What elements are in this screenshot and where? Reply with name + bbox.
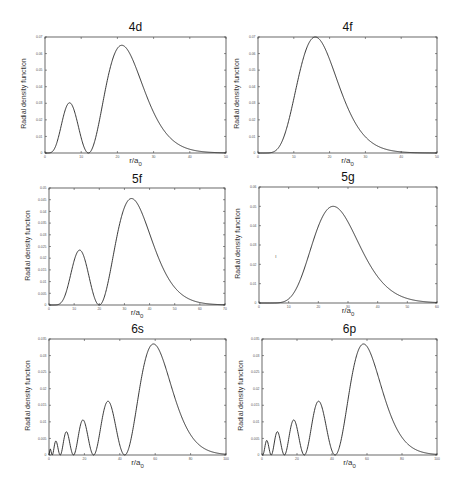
y-tick-label: 0: [254, 151, 256, 155]
y-axis-label: Radial density function: [24, 187, 31, 304]
y-tick-label: 0.005: [38, 437, 47, 441]
y-axis-label: Radial density function: [234, 186, 241, 302]
x-axis-label: r/a0: [259, 306, 437, 317]
y-tick-label: 0.03: [250, 243, 257, 247]
y-axis-label: Radial density function: [24, 338, 31, 454]
radial-density-curve: [262, 344, 437, 455]
y-tick-label: 0.07: [249, 35, 256, 39]
radial-density-curve: [45, 45, 226, 153]
plot-area: 02040608010000.0050.010.0150.020.0250.03…: [49, 339, 226, 455]
y-tick-label: 0.035: [38, 221, 47, 225]
y-tick-label: 0.035: [251, 337, 260, 341]
x-axis-label: r/a0: [49, 458, 226, 469]
y-tick-label: 0.045: [38, 198, 47, 202]
plot-area: 0102030405000.010.020.030.040.050.060.07: [258, 37, 437, 153]
y-tick-label: 0.04: [250, 224, 257, 228]
panel-title: 4f: [258, 20, 437, 34]
stray-mark: ı: [275, 253, 277, 259]
y-tick-label: 0.02: [250, 263, 257, 267]
y-tick-label: 0.01: [40, 420, 47, 424]
x-axis-label: r/a0: [258, 156, 437, 167]
y-axis-label: Radial density function: [237, 338, 244, 454]
y-tick-label: 0: [45, 303, 47, 307]
y-tick-label: 0.02: [36, 118, 43, 122]
panel-title: 6p: [262, 322, 437, 336]
plot-frame: [258, 37, 437, 153]
y-tick-label: 0.02: [40, 256, 47, 260]
panel-title: 5f: [49, 172, 225, 186]
x-axis-label: r/a0: [262, 458, 437, 469]
y-tick-label: 0: [41, 151, 43, 155]
y-tick-label: 0.06: [250, 185, 257, 189]
plot-area: 02040608010000.0050.010.0150.020.0250.03…: [262, 339, 437, 455]
plot-area: 010203040506000.010.020.030.040.050.06: [259, 187, 437, 303]
y-tick-label: 0.025: [38, 370, 47, 374]
y-tick-label: 0.015: [38, 403, 47, 407]
y-tick-label: 0.03: [249, 101, 256, 105]
y-tick-label: 0.04: [249, 85, 256, 89]
y-tick-label: 0.05: [249, 68, 256, 72]
plot-frame: [259, 187, 437, 303]
y-tick-label: 0.03: [253, 354, 260, 358]
y-tick-label: 0.06: [36, 52, 43, 56]
y-tick-label: 0.05: [250, 205, 257, 209]
radial-density-curve: [49, 199, 225, 305]
y-axis-label: Radial density function: [20, 36, 27, 152]
y-tick-label: 0.01: [250, 282, 257, 286]
y-tick-label: 0.03: [40, 233, 47, 237]
y-tick-label: 0.03: [36, 101, 43, 105]
y-axis-label: Radial density function: [233, 36, 240, 152]
plot-frame: [262, 339, 437, 455]
y-tick-label: 0.01: [249, 135, 256, 139]
plot-frame: [45, 37, 226, 153]
y-tick-label: 0.04: [36, 85, 43, 89]
y-tick-label: 0.01: [36, 135, 43, 139]
y-tick-label: 0.04: [40, 210, 47, 214]
y-tick-label: 0.01: [40, 280, 47, 284]
y-tick-label: 0.07: [36, 35, 43, 39]
y-tick-label: 0.02: [40, 387, 47, 391]
y-tick-label: 0: [255, 301, 257, 305]
y-tick-label: 0.015: [251, 403, 260, 407]
radial-density-curve: [258, 37, 437, 153]
y-tick-label: 0.015: [38, 268, 47, 272]
y-tick-label: 0.01: [253, 420, 260, 424]
y-tick-label: 0.005: [251, 437, 260, 441]
y-tick-label: 0: [45, 453, 47, 457]
y-tick-label: 0.05: [36, 68, 43, 72]
y-tick-label: 0.005: [38, 292, 47, 296]
y-tick-label: 0: [258, 453, 260, 457]
panel-title: 4d: [45, 20, 226, 34]
y-tick-label: 0.025: [251, 370, 260, 374]
plot-area: 01020304050607000.0050.010.0150.020.0250…: [49, 188, 225, 305]
panel-title: 6s: [49, 322, 226, 336]
y-tick-label: 0.025: [38, 245, 47, 249]
x-axis-label: r/a0: [49, 308, 225, 319]
y-tick-label: 0.02: [249, 118, 256, 122]
radial-density-curve: [259, 206, 437, 303]
y-tick-label: 0.035: [38, 337, 47, 341]
plot-frame: [49, 339, 226, 455]
y-tick-label: 0.06: [249, 52, 256, 56]
y-tick-label: 0.02: [253, 387, 260, 391]
radial-density-curve: [49, 344, 226, 455]
plot-area: 0102030405000.010.020.030.040.050.060.07: [45, 37, 226, 153]
y-tick-label: 0.03: [40, 354, 47, 358]
plot-frame: [49, 188, 225, 305]
y-tick-label: 0.05: [40, 186, 47, 190]
panel-title: 5g: [259, 170, 437, 184]
x-axis-label: r/a0: [45, 156, 226, 167]
